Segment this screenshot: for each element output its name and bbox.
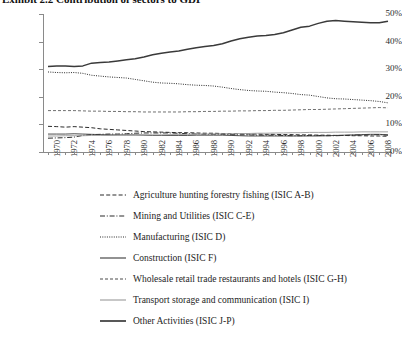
x-axis-tick-mark (74, 152, 75, 155)
x-axis-tick-mark (318, 152, 319, 155)
x-axis-tick-mark (275, 152, 276, 155)
x-axis-tick-mark (100, 152, 101, 155)
legend-item[interactable]: Other Activities (ISIC J-P) (100, 312, 235, 330)
series-lines (44, 14, 392, 152)
x-axis-tick-mark (83, 152, 84, 155)
x-axis-tick-mark (240, 152, 241, 155)
x-axis-tick-mark (353, 152, 354, 155)
x-axis-tick-mark (257, 152, 258, 155)
chart-legend: Agriculture hunting forestry fishing (IS… (0, 186, 402, 336)
x-axis-tick-mark (179, 152, 180, 155)
x-axis-tick-mark (57, 152, 58, 155)
x-axis-tick-mark (310, 152, 311, 155)
page-title: Exhibit 2.2 Contribution of sectors to G… (2, 0, 203, 5)
x-axis-tick-mark (161, 152, 162, 155)
legend-item-label: Construction (ISIC F) (133, 253, 216, 263)
x-axis-tick-mark (249, 152, 250, 155)
legend-item-label: Manufacturing (ISIC D) (133, 232, 225, 242)
x-axis-tick-mark (388, 152, 389, 155)
legend-item-label: Transport storage and communication (ISI… (133, 295, 309, 305)
legend-item-label: Other Activities (ISIC J-P) (133, 316, 235, 326)
legend-item[interactable]: Mining and Utilities (ISIC C-E) (100, 207, 254, 225)
x-axis-tick-mark (187, 152, 188, 155)
chart-page: Exhibit 2.2 Contribution of sectors to G… (0, 0, 402, 340)
legend-line-swatch (100, 190, 126, 200)
x-axis-tick-mark (344, 152, 345, 155)
legend-line-swatch (100, 316, 126, 326)
y-axis-tick-mark (39, 152, 44, 153)
plot-area (44, 14, 392, 152)
x-axis-tick-mark (222, 152, 223, 155)
series-line (48, 21, 388, 67)
x-axis-tick-mark (135, 152, 136, 155)
x-axis-tick-mark (170, 152, 171, 155)
x-axis-tick-mark (48, 152, 49, 155)
x-axis-tick-mark (92, 152, 93, 155)
x-axis-tick-mark (336, 152, 337, 155)
x-axis-tick-mark (362, 152, 363, 155)
x-axis-tick-mark (371, 152, 372, 155)
legend-item[interactable]: Wholesale retail trade restaurants and h… (100, 270, 347, 288)
legend-line-swatch (100, 211, 126, 221)
x-axis-tick-mark (118, 152, 119, 155)
series-line (48, 72, 388, 103)
chart-title-strip: Exhibit 2.2 Contribution of sectors to G… (0, 0, 402, 7)
x-axis-tick-mark (379, 152, 380, 155)
legend-item[interactable]: Transport storage and communication (ISI… (100, 291, 309, 309)
legend-item[interactable]: Construction (ISIC F) (100, 249, 216, 267)
legend-item-label: Mining and Utilities (ISIC C-E) (133, 211, 254, 221)
x-axis-tick-mark (126, 152, 127, 155)
x-axis-tick-mark (327, 152, 328, 155)
legend-item-label: Wholesale retail trade restaurants and h… (133, 274, 347, 284)
x-axis-tick-mark (153, 152, 154, 155)
x-axis-tick-mark (301, 152, 302, 155)
legend-line-swatch (100, 274, 126, 284)
legend-item[interactable]: Manufacturing (ISIC D) (100, 228, 225, 246)
legend-item-label: Agriculture hunting forestry fishing (IS… (133, 190, 314, 200)
legend-line-swatch (100, 253, 126, 263)
x-axis-tick-mark (109, 152, 110, 155)
x-axis-tick-mark (214, 152, 215, 155)
x-axis-tick-mark (65, 152, 66, 155)
x-axis-tick-mark (231, 152, 232, 155)
x-axis-tick-mark (266, 152, 267, 155)
x-axis-tick-mark (283, 152, 284, 155)
x-axis-tick-mark (196, 152, 197, 155)
legend-line-swatch (100, 232, 126, 242)
legend-line-swatch (100, 295, 126, 305)
x-axis-tick-mark (205, 152, 206, 155)
x-axis-tick-mark (144, 152, 145, 155)
legend-item[interactable]: Agriculture hunting forestry fishing (IS… (100, 186, 314, 204)
series-line (48, 108, 388, 112)
x-axis-tick-mark (292, 152, 293, 155)
line-chart: 0%10%20%30%40%50% 1970197219741976197819… (0, 7, 402, 190)
